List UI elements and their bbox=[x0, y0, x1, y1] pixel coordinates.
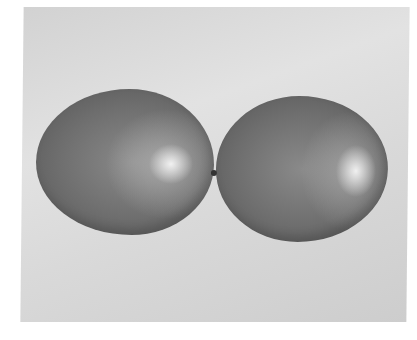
right-balloon bbox=[215, 96, 389, 242]
balloon-photo bbox=[20, 7, 409, 322]
balloon-knot bbox=[211, 170, 217, 176]
left-balloon bbox=[35, 89, 215, 235]
